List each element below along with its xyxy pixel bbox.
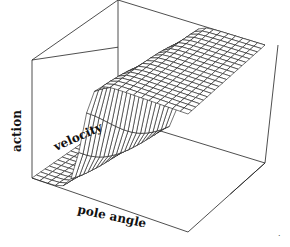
surface-plot: action velocity pole angle · (0, 0, 290, 247)
x-axis-label: pole angle (76, 202, 148, 230)
corner-mark: · (278, 231, 281, 240)
surface-mesh (32, 28, 265, 186)
z-axis-label: action (10, 110, 24, 152)
